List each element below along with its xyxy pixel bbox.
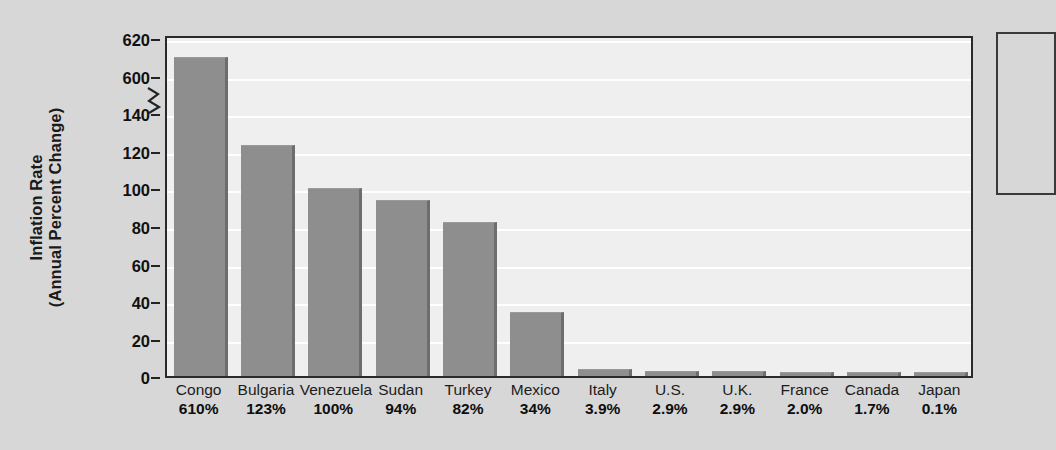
bar bbox=[376, 200, 430, 376]
y-axis-tick-label: 600 bbox=[122, 68, 150, 87]
y-axis-title-text: Inflation Rate (Annual Percent Change) bbox=[28, 107, 67, 306]
x-axis-label-group: Congo610% bbox=[165, 381, 232, 418]
bar-value-label: 3.9% bbox=[569, 400, 636, 417]
x-axis-category-label: Canada bbox=[838, 381, 905, 398]
y-axis-tick-mark bbox=[151, 302, 160, 304]
x-axis-category-label: Congo bbox=[165, 381, 232, 398]
x-axis-category-label: Turkey bbox=[434, 381, 501, 398]
y-axis-tick-mark bbox=[151, 39, 160, 41]
y-axis-tick-mark bbox=[151, 152, 160, 154]
y-axis-tick-label: 0 bbox=[141, 369, 150, 388]
x-axis-label-group: U.S.2.9% bbox=[636, 381, 703, 418]
y-axis-tick-mark bbox=[151, 77, 160, 79]
x-axis-label-group: Venezuela100% bbox=[300, 381, 367, 418]
bar-value-label: 610% bbox=[165, 400, 232, 417]
x-axis-label-group: Italy3.9% bbox=[569, 381, 636, 418]
y-axis-tick-label: 20 bbox=[132, 331, 150, 350]
bar-value-label: 34% bbox=[502, 400, 569, 417]
bar-value-label: 94% bbox=[367, 400, 434, 417]
x-axis-label-group: Mexico34% bbox=[502, 381, 569, 418]
y-axis-tick-mark bbox=[151, 114, 160, 116]
plot-area bbox=[165, 36, 973, 378]
x-axis-label-group: Japan0.1% bbox=[906, 381, 973, 418]
x-axis-label-group: Sudan94% bbox=[367, 381, 434, 418]
x-axis-label-group: Turkey82% bbox=[434, 381, 501, 418]
bar-series bbox=[167, 38, 971, 376]
y-axis-tick-mark bbox=[151, 377, 160, 379]
x-axis-category-label: Japan bbox=[906, 381, 973, 398]
bar bbox=[308, 188, 362, 376]
bar bbox=[443, 222, 497, 376]
y-axis-tick-label: 620 bbox=[122, 31, 150, 50]
x-axis-category-label: U.K. bbox=[704, 381, 771, 398]
y-axis-tick-label: 100 bbox=[122, 181, 150, 200]
y-axis-tick-mark bbox=[151, 265, 160, 267]
x-axis-category-label: U.S. bbox=[636, 381, 703, 398]
y-axis-ticks: 620600140120100806040200 bbox=[84, 0, 160, 450]
x-axis-label-group: Canada1.7% bbox=[838, 381, 905, 418]
bar bbox=[241, 145, 295, 376]
y-axis-tick-label: 60 bbox=[132, 256, 150, 275]
x-axis-category-label: Bulgaria bbox=[232, 381, 299, 398]
y-axis-tick-label: 40 bbox=[132, 294, 150, 313]
bar-value-label: 1.7% bbox=[838, 400, 905, 417]
y-axis-tick-label: 140 bbox=[122, 106, 150, 125]
bar-value-label: 2.9% bbox=[636, 400, 703, 417]
y-axis-tick-mark bbox=[151, 340, 160, 342]
x-axis-label-group: Bulgaria123% bbox=[232, 381, 299, 418]
x-axis-category-label: Sudan bbox=[367, 381, 434, 398]
y-axis-title: Inflation Rate (Annual Percent Change) bbox=[18, 36, 76, 378]
bar-value-label: 2.9% bbox=[704, 400, 771, 417]
y-axis-tick-mark bbox=[151, 227, 160, 229]
annotation-box bbox=[996, 32, 1056, 195]
x-axis-label-group: U.K.2.9% bbox=[704, 381, 771, 418]
y-axis-tick-label: 120 bbox=[122, 143, 150, 162]
x-axis-labels: Congo610%Bulgaria123%Venezuela100%Sudan9… bbox=[165, 381, 973, 441]
bar bbox=[578, 369, 632, 376]
x-axis-category-label: Italy bbox=[569, 381, 636, 398]
bar bbox=[712, 371, 766, 376]
x-axis-category-label: Mexico bbox=[502, 381, 569, 398]
bar bbox=[174, 57, 228, 376]
x-axis-label-group: France2.0% bbox=[771, 381, 838, 418]
x-axis-category-label: Venezuela bbox=[300, 381, 367, 398]
bar-value-label: 123% bbox=[232, 400, 299, 417]
y-axis-tick-mark bbox=[151, 189, 160, 191]
x-axis-category-label: France bbox=[771, 381, 838, 398]
bar-value-label: 82% bbox=[434, 400, 501, 417]
bar bbox=[914, 372, 968, 376]
bar bbox=[510, 312, 564, 376]
y-axis-title-line-1: Inflation Rate bbox=[28, 107, 47, 306]
y-axis-title-line-2: (Annual Percent Change) bbox=[47, 107, 66, 306]
bar bbox=[780, 372, 834, 376]
bar bbox=[645, 371, 699, 376]
bar bbox=[847, 372, 901, 376]
y-axis-tick-label: 80 bbox=[132, 219, 150, 238]
bar-value-label: 2.0% bbox=[771, 400, 838, 417]
bar-value-label: 0.1% bbox=[906, 400, 973, 417]
bar-value-label: 100% bbox=[300, 400, 367, 417]
